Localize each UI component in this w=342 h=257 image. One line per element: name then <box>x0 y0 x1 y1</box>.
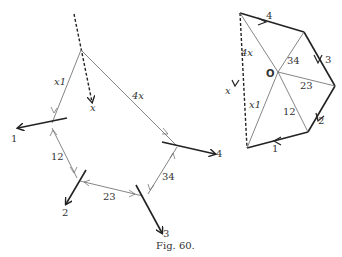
label-force-3: 3 <box>163 228 169 239</box>
label-side-2: 2 <box>318 115 324 126</box>
label-12: 12 <box>51 151 64 162</box>
diagram-canvas: x x1 4x 1 12 2 23 3 34 4 Fig. 60. O 4 3 <box>0 0 342 257</box>
label-23-right: 23 <box>300 80 313 91</box>
force-1-bar <box>18 118 67 128</box>
label-12-right: 12 <box>283 106 296 117</box>
arrow-icon <box>148 184 154 190</box>
label-side-1: 1 <box>272 143 278 154</box>
label-force-2: 2 <box>62 207 68 218</box>
label-force-4: 4 <box>216 148 222 159</box>
arrow-icon <box>170 153 175 159</box>
label-force-1: 1 <box>11 133 17 144</box>
label-side-4: 4 <box>266 10 272 21</box>
label-origin: O <box>266 68 275 79</box>
force-4-bar <box>162 142 215 154</box>
label-x-right: x <box>225 85 231 96</box>
label-side-3: 3 <box>325 54 331 65</box>
label-34-right: 34 <box>287 55 300 66</box>
dashed-x-closing <box>240 13 247 148</box>
figure-caption: Fig. 60. <box>156 240 195 251</box>
label-x1-right: x1 <box>249 99 261 110</box>
ray-x1 <box>247 72 278 148</box>
force-2-bar <box>66 170 86 204</box>
force-polygon: O 4 3 2 1 4x x1 x 34 23 12 <box>225 10 335 154</box>
label-x: x <box>90 102 96 113</box>
label-34: 34 <box>162 171 175 182</box>
label-x1: x1 <box>54 76 66 87</box>
label-4x-right: 4x <box>240 47 253 58</box>
ray-34 <box>278 32 304 72</box>
arrow-icon <box>162 128 168 134</box>
label-23: 23 <box>103 191 116 202</box>
funicular-polygon: x x1 4x 1 12 2 23 3 34 4 Fig. 60. <box>11 14 222 251</box>
label-4x: 4x <box>131 90 144 101</box>
string-4x <box>81 50 177 146</box>
arrow-icon <box>70 167 77 173</box>
arrow-icon <box>232 80 239 86</box>
